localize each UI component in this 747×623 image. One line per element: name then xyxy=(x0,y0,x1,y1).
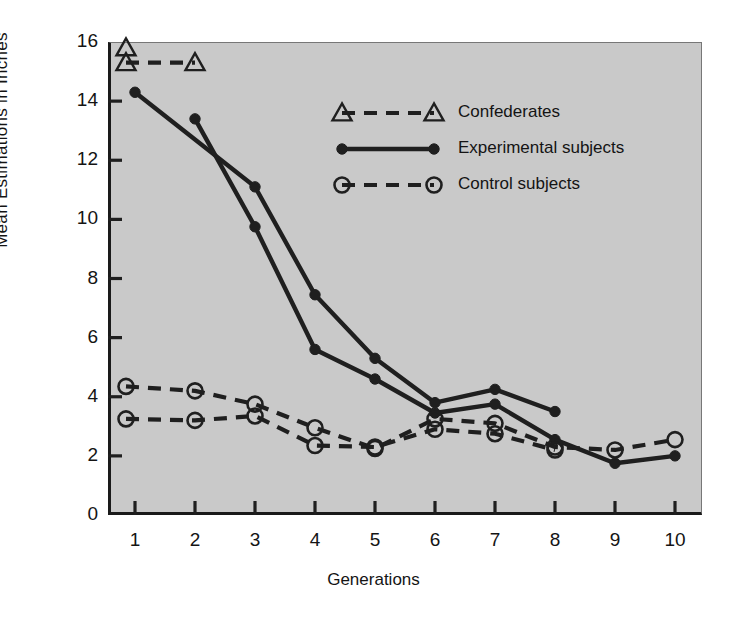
legend-label-2: Control subjects xyxy=(458,174,580,194)
x-tick-label: 3 xyxy=(235,529,275,551)
x-tick-label: 7 xyxy=(475,529,515,551)
legend-marker-1 xyxy=(337,144,347,154)
chart-figure: Mean Estimations in Inches Generations 0… xyxy=(0,0,747,623)
legend-marker-1 xyxy=(429,144,439,154)
y-tick-label: 8 xyxy=(52,267,98,289)
data-point xyxy=(490,384,500,394)
data-point xyxy=(370,353,380,363)
x-tick-label: 8 xyxy=(535,529,575,551)
data-point xyxy=(610,458,620,468)
x-tick-label: 4 xyxy=(295,529,335,551)
data-point xyxy=(550,406,560,416)
y-tick-label: 12 xyxy=(52,148,98,170)
y-axis-title: Mean Estimations in Inches xyxy=(0,10,12,270)
data-point xyxy=(310,344,320,354)
x-axis-title: Generations xyxy=(0,570,747,590)
y-tick-label: 2 xyxy=(52,444,98,466)
data-point xyxy=(490,399,500,409)
legend-label-1: Experimental subjects xyxy=(458,138,624,158)
y-tick-label: 4 xyxy=(52,385,98,407)
data-point xyxy=(250,222,260,232)
data-point xyxy=(190,114,200,124)
x-tick-label: 6 xyxy=(415,529,455,551)
legend-label-0: Confederates xyxy=(458,102,560,122)
data-point xyxy=(310,290,320,300)
data-point xyxy=(250,182,260,192)
x-tick-label: 10 xyxy=(655,529,695,551)
y-tick-label: 10 xyxy=(52,207,98,229)
y-tick-label: 0 xyxy=(52,503,98,525)
data-point xyxy=(430,397,440,407)
data-point xyxy=(668,432,683,447)
data-point xyxy=(670,451,680,461)
y-tick-label: 6 xyxy=(52,326,98,348)
x-tick-label: 9 xyxy=(595,529,635,551)
x-tick-label: 2 xyxy=(175,529,215,551)
x-tick-label: 1 xyxy=(115,529,155,551)
data-point xyxy=(370,374,380,384)
x-tick-label: 5 xyxy=(355,529,395,551)
y-tick-label: 14 xyxy=(52,89,98,111)
data-point xyxy=(130,87,140,97)
y-tick-label: 16 xyxy=(52,30,98,52)
